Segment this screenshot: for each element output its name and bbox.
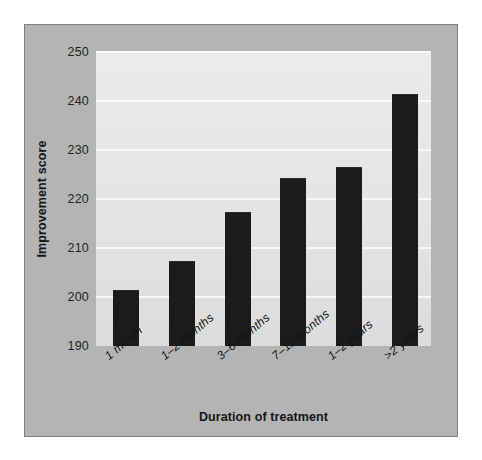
bar[interactable] <box>336 167 362 346</box>
bar[interactable] <box>280 178 306 346</box>
y-axis-tick-label: 210 <box>68 241 89 255</box>
figure-root: Improvement score 190200210220230240250 … <box>0 0 482 460</box>
gridline-230 <box>96 149 431 151</box>
bar[interactable] <box>392 94 418 346</box>
gridline-210 <box>96 247 431 249</box>
x-axis-title-label: Duration of treatment <box>96 410 431 424</box>
chart-figure-panel: Improvement score 190200210220230240250 … <box>24 24 458 437</box>
y-axis-tick-label: 250 <box>68 45 89 59</box>
gridline-220 <box>96 198 431 200</box>
y-axis-title: Improvement score <box>33 52 51 346</box>
y-axis-tick-label: 220 <box>68 192 89 206</box>
y-axis-tick-label: 230 <box>68 143 89 157</box>
y-axis-tick-label: 200 <box>68 290 89 304</box>
x-axis-tick-layer: 1 month1–2 months3–6 months7–11 months1–… <box>96 348 431 410</box>
y-axis-tick-label: 240 <box>68 94 89 108</box>
y-axis-title-label: Improvement score <box>35 140 49 257</box>
y-axis-tick-layer: 190200210220230240250 <box>53 52 95 346</box>
plot-area <box>96 52 431 346</box>
gridline-200 <box>96 296 431 298</box>
gridline-250 <box>96 51 431 53</box>
gridline-190 <box>96 345 431 347</box>
gridline-240 <box>96 100 431 102</box>
y-axis-tick-label: 190 <box>68 339 89 353</box>
